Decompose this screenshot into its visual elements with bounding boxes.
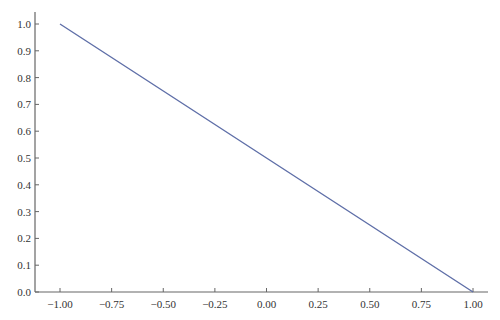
y-tick-label: 0.8 — [17, 72, 31, 84]
y-tick-label: 0.5 — [17, 152, 31, 164]
y-tick-label: 0.9 — [17, 45, 31, 57]
x-tick-label: −0.25 — [202, 298, 228, 310]
x-tick-label: 0.50 — [360, 298, 380, 310]
plot-area — [60, 24, 473, 292]
y-axis: 0.00.10.20.30.40.50.60.70.80.91.0 — [17, 12, 39, 298]
x-axis: −1.00−0.75−0.50−0.250.000.250.500.751.00 — [35, 288, 488, 310]
x-tick-label: −1.00 — [47, 298, 73, 310]
y-tick-label: 0.7 — [17, 98, 31, 110]
y-tick-label: 0.0 — [17, 286, 31, 298]
y-tick-label: 0.1 — [17, 259, 31, 271]
x-tick-label: 0.00 — [257, 298, 277, 310]
line-chart: 0.00.10.20.30.40.50.60.70.80.91.0 −1.00−… — [0, 0, 500, 320]
y-tick-label: 1.0 — [17, 18, 31, 30]
y-tick-label: 0.4 — [17, 179, 31, 191]
y-tick-label: 0.3 — [17, 206, 31, 218]
x-tick-label: −0.75 — [99, 298, 125, 310]
x-tick-label: 0.25 — [309, 298, 329, 310]
y-tick-label: 0.2 — [17, 232, 31, 244]
data-line — [60, 24, 473, 292]
y-tick-label: 0.6 — [17, 125, 31, 137]
x-tick-label: 0.75 — [412, 298, 432, 310]
x-tick-label: 1.00 — [463, 298, 483, 310]
x-tick-label: −0.50 — [151, 298, 177, 310]
